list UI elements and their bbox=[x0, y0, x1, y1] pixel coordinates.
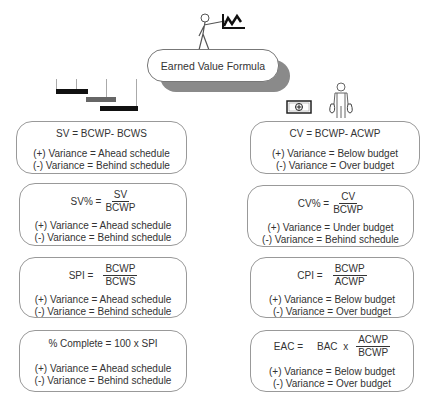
spi-denominator: BCWS bbox=[105, 276, 135, 287]
spi-formula-box: SPI = BCWP BCWS (+) Variance = Ahead sch… bbox=[19, 257, 187, 318]
sv-formula-box: SV = BCWP- BCWS (+) Variance = Ahead sch… bbox=[16, 121, 187, 174]
cv-percent-formula-box: CV% = CV BCWP (+) Variance = Under budge… bbox=[247, 185, 414, 247]
eac-negative-variance: (-) Variance = Over budget bbox=[251, 378, 413, 390]
eac-denominator: BCWP bbox=[358, 347, 388, 358]
cv-percent-fraction: CV BCWP bbox=[333, 192, 363, 215]
percent-complete-formula: % Complete = 100 x SPI bbox=[20, 339, 186, 349]
cpi-denominator: ACWP bbox=[335, 276, 365, 287]
cv-percent-formula: CV% = CV BCWP bbox=[248, 192, 413, 215]
spi-numerator: BCWP bbox=[103, 264, 137, 276]
cv-negative-variance: (-) Variance = Over budget bbox=[251, 160, 419, 172]
cv-formula: CV = BCWP- ACWP bbox=[251, 129, 419, 139]
sv-percent-numerator: SV bbox=[112, 190, 129, 202]
spi-formula: SPI = BCWP BCWS bbox=[20, 264, 186, 287]
sv-percent-positive-variance: (+) Variance = Ahead schedule bbox=[20, 220, 186, 232]
spi-lhs: SPI = bbox=[69, 271, 94, 281]
title-pill: Earned Value Formula bbox=[147, 49, 279, 82]
sv-percent-formula: SV% = SV BCWP bbox=[20, 190, 186, 213]
cpi-formula-box: CPI = BCWP ACWP (+) Variance = Below bud… bbox=[250, 257, 414, 318]
spi-positive-variance: (+) Variance = Ahead schedule bbox=[20, 294, 186, 306]
cv-formula-box: CV = BCWP- ACWP (+) Variance = Below bud… bbox=[250, 121, 420, 174]
cv-percent-numerator: CV bbox=[339, 192, 357, 204]
sv-percent-fraction: SV BCWP bbox=[105, 190, 135, 213]
eac-positive-variance: (+) Variance = Below budget bbox=[251, 366, 413, 378]
eac-formula-box: EAC = BAC x ACWP BCWP (+) Variance = Bel… bbox=[250, 330, 414, 392]
sv-percent-negative-variance: (-) Variance = Behind schedule bbox=[20, 232, 186, 244]
cpi-formula: CPI = BCWP ACWP bbox=[251, 264, 413, 287]
cpi-negative-variance: (-) Variance = Over budget bbox=[251, 306, 413, 318]
eac-formula: EAC = BAC x ACWP BCWP bbox=[251, 335, 413, 358]
cpi-lhs: CPI = bbox=[297, 271, 322, 281]
money-bill-icon bbox=[286, 100, 312, 114]
cv-percent-denominator: BCWP bbox=[333, 204, 363, 215]
sv-percent-formula-box: SV% = SV BCWP (+) Variance = Ahead sched… bbox=[19, 183, 187, 246]
eac-numerator: ACWP bbox=[356, 335, 390, 347]
percent-complete-positive-variance: (+) Variance = Ahead schedule bbox=[20, 363, 186, 375]
sv-percent-lhs: SV% = bbox=[71, 197, 102, 207]
cv-percent-positive-variance: (+) Variance = Under budget bbox=[248, 222, 413, 234]
eac-lhs: EAC = bbox=[274, 342, 303, 352]
person-with-money-bags-icon bbox=[326, 82, 356, 120]
diagram-title: Earned Value Formula bbox=[161, 60, 265, 72]
gantt-chart-icon bbox=[54, 74, 154, 114]
cv-positive-variance: (+) Variance = Below budget bbox=[251, 148, 419, 160]
sv-negative-variance: (-) Variance = Behind schedule bbox=[17, 160, 186, 172]
cv-percent-negative-variance: (-) Variance = Behind schedule bbox=[248, 234, 413, 246]
presenter-with-chart-icon bbox=[195, 10, 255, 52]
spi-negative-variance: (-) Variance = Behind schedule bbox=[20, 306, 186, 318]
eac-mid: BAC x bbox=[317, 342, 348, 352]
sv-percent-denominator: BCWP bbox=[105, 202, 135, 213]
cv-percent-lhs: CV% = bbox=[298, 199, 329, 209]
sv-positive-variance: (+) Variance = Ahead schedule bbox=[17, 148, 186, 160]
percent-complete-formula-box: % Complete = 100 x SPI (+) Variance = Ah… bbox=[19, 330, 187, 392]
eac-fraction: ACWP BCWP bbox=[356, 335, 390, 358]
cpi-positive-variance: (+) Variance = Below budget bbox=[251, 294, 413, 306]
cpi-numerator: BCWP bbox=[333, 264, 367, 276]
cpi-fraction: BCWP ACWP bbox=[333, 264, 367, 287]
percent-complete-negative-variance: (-) Variance = Behind schedule bbox=[20, 375, 186, 387]
sv-formula: SV = BCWP- BCWS bbox=[17, 129, 186, 139]
spi-fraction: BCWP BCWS bbox=[103, 264, 137, 287]
